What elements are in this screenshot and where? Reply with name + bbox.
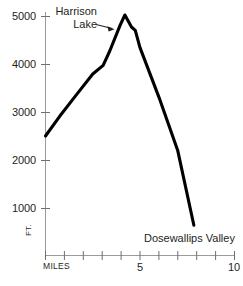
annotation-harrison-lake: Harrison Lake [52, 5, 97, 30]
y-tick-label-2000: 2000 [4, 155, 36, 166]
x-tick-label-5: 5 [128, 262, 152, 273]
x-axis-origin-label: MILES [43, 262, 70, 271]
y-tick-label-4000: 4000 [4, 59, 36, 70]
elevation-profile-chart: 5000 4000 3000 2000 1000 5 10 FT. MILES … [0, 0, 243, 286]
harrison-lake-arrow-icon [96, 25, 115, 32]
annotation-harrison-lake-line2: Lake [52, 18, 97, 31]
y-axis-unit-label: FT. [25, 224, 33, 236]
y-tick-label-1000: 1000 [4, 203, 36, 214]
y-tick-label-5000: 5000 [4, 11, 36, 22]
x-tick-label-10: 10 [222, 262, 243, 273]
y-tick-label-3000: 3000 [4, 107, 36, 118]
elevation-curve [46, 15, 194, 225]
annotation-dosewallips-valley: Dosewallips Valley [144, 232, 235, 245]
annotation-harrison-lake-line1: Harrison [52, 5, 97, 18]
